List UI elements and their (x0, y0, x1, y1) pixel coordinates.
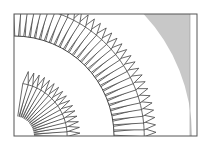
figure-canvas (0, 0, 210, 143)
toothed-ring-drawing (0, 0, 210, 143)
inner-fan-teeth (18, 72, 80, 137)
